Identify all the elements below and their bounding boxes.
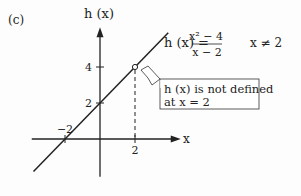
y-axis-arrow-icon (97, 27, 104, 37)
y-tick-label: 2 (85, 97, 92, 110)
function-denominator: x − 2 (192, 46, 221, 59)
hole-marker (132, 64, 137, 69)
panel-label: (c) (8, 13, 24, 27)
function-numerator: x² − 4 (189, 30, 223, 43)
y-tick-label: 4 (85, 61, 92, 74)
y-axis-label: h (x) (84, 6, 114, 21)
annotation-line-1: h (x) is not defined (164, 82, 274, 96)
figure: (c) −2224 h (x) x h (x) = x² − 4 x − 2 x… (0, 0, 301, 196)
series-line (34, 33, 169, 172)
annotation-line-2: at x = 2 (164, 95, 210, 109)
domain-condition: x ≠ 2 (250, 36, 282, 50)
annotation-arrow-icon (141, 66, 160, 85)
plot: (c) −2224 h (x) x h (x) = x² − 4 x − 2 x… (0, 0, 301, 196)
x-axis-arrow-icon (171, 136, 181, 143)
x-tick-label: 2 (132, 144, 139, 157)
x-axis-label: x (183, 132, 190, 146)
